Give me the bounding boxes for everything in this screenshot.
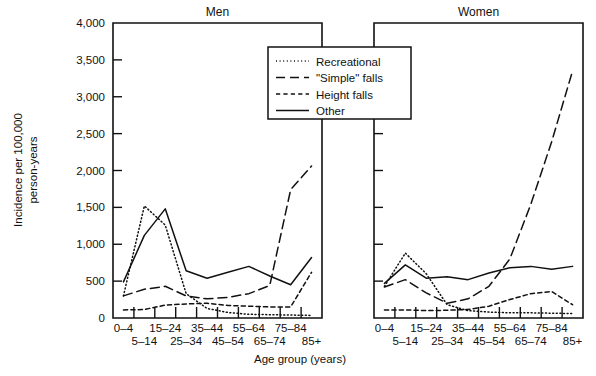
legend-label-simple-falls: "Simple" falls xyxy=(316,72,383,84)
x-category-label: 25–34 xyxy=(431,335,464,347)
x-category-label: 25–34 xyxy=(170,335,203,347)
y-tick-label-3500: 3,500 xyxy=(76,54,105,66)
x-category-label: 65–74 xyxy=(254,335,287,347)
legend-label-other: Other xyxy=(316,105,345,117)
x-category-label: 85+ xyxy=(563,335,583,347)
x-category-label: 75–84 xyxy=(275,322,308,334)
x-category-label: 5–14 xyxy=(132,335,158,347)
series-line-recreational xyxy=(384,253,572,313)
legend-label-height-falls: Height falls xyxy=(316,89,373,101)
x-category-label: 15–24 xyxy=(149,322,182,334)
legend-label-recreational: Recreational xyxy=(316,56,381,68)
x-category-label: 5–14 xyxy=(393,335,419,347)
x-category-label: 65–74 xyxy=(515,335,548,347)
x-category-label: 45–54 xyxy=(212,335,245,347)
panel-title-women: Women xyxy=(458,5,499,19)
y-tick-label-2000: 2,000 xyxy=(76,165,105,177)
x-category-label: 45–54 xyxy=(473,335,506,347)
x-category-label: 0–4 xyxy=(375,322,395,334)
y-axis-title-line2: person-years xyxy=(27,136,39,203)
x-axis-title: Age group (years) xyxy=(254,353,346,365)
y-tick-label-3000: 3,000 xyxy=(76,91,105,103)
x-category-label: 15–24 xyxy=(410,322,443,334)
series-line-height-falls xyxy=(123,272,311,310)
figure-canvas: 05001,0001,5002,0002,5003,0003,5004,000M… xyxy=(0,0,596,376)
x-category-label: 35–44 xyxy=(191,322,224,334)
y-tick-label-4000: 4,000 xyxy=(76,17,105,29)
y-axis-title: Incidence per 100,000person-years xyxy=(12,113,39,227)
x-category-label: 55–64 xyxy=(494,322,527,334)
panel-title-men: Men xyxy=(206,5,229,19)
y-tick-label-1500: 1,500 xyxy=(76,201,105,213)
series-line-simple-falls xyxy=(123,166,311,299)
x-category-label: 35–44 xyxy=(452,322,485,334)
x-category-label: 85+ xyxy=(302,335,322,347)
y-tick-label-0: 0 xyxy=(99,312,105,324)
y-tick-label-1000: 1,000 xyxy=(76,238,105,250)
y-tick-label-500: 500 xyxy=(86,275,105,287)
series-line-other xyxy=(384,265,572,283)
x-category-label: 75–84 xyxy=(536,322,569,334)
y-axis-title-line1: Incidence per 100,000 xyxy=(12,113,24,227)
x-category-label: 55–64 xyxy=(233,322,266,334)
chart-svg: 05001,0001,5002,0002,5003,0003,5004,000M… xyxy=(0,0,596,376)
y-tick-label-2500: 2,500 xyxy=(76,128,105,140)
x-category-label: 0–4 xyxy=(114,322,134,334)
